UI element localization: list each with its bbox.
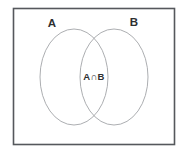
intersection-label: A∩B — [83, 71, 104, 82]
set-a-label: A — [48, 17, 57, 29]
set-b-label: B — [130, 16, 139, 28]
venn-diagram-canvas: A B A∩B — [0, 0, 189, 155]
venn-diagram-figure: A B A∩B — [0, 0, 189, 155]
